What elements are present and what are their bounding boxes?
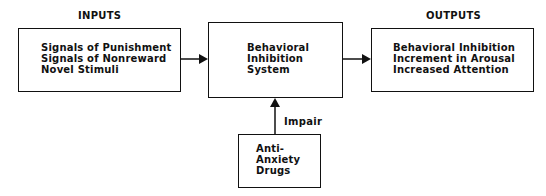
arrows-layer xyxy=(0,0,546,196)
arrow-drugs-to-center-icon xyxy=(270,98,280,134)
arrow-center-to-outputs-icon xyxy=(343,54,371,64)
arrow-inputs-to-center-icon xyxy=(181,54,208,64)
